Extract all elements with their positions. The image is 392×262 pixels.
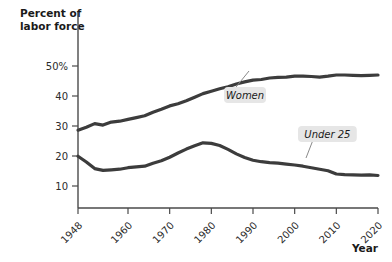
x-axis-title: Year	[351, 242, 379, 254]
y-axis-title-line2: labor force	[20, 20, 85, 32]
x-tick-label-1960: 1960	[109, 220, 135, 246]
chart-figure: Percent of labor force 50%40302010 19481…	[0, 0, 392, 262]
y-axis-title-line1: Percent of	[20, 7, 82, 19]
x-tick-label-1980: 1980	[192, 220, 218, 246]
y-tick-label-10: 10	[55, 181, 68, 192]
line-chart: Percent of labor force 50%40302010 19481…	[0, 0, 392, 262]
y-tick-label-30: 30	[55, 121, 68, 132]
callout-leader-under25	[306, 140, 313, 158]
callout-leader-women	[236, 71, 249, 87]
x-axis-ticks: 19481960197019801990200020102020	[59, 208, 385, 245]
x-tick-label-1970: 1970	[150, 220, 176, 246]
x-tick-label-1948: 1948	[59, 220, 85, 246]
x-tick-label-1990: 1990	[234, 220, 260, 246]
callout-label-under25: Under 25	[304, 129, 350, 140]
series-line-under-25	[78, 143, 378, 176]
y-axis-ticks: 50%40302010	[46, 61, 78, 192]
callout-label-women: Women	[226, 90, 264, 101]
y-tick-label-50: 50%	[46, 61, 68, 72]
x-tick-label-2010: 2010	[317, 220, 343, 246]
series-callouts: WomenUnder 25	[224, 71, 357, 158]
y-tick-label-20: 20	[55, 151, 68, 162]
x-tick-label-2000: 2000	[275, 220, 301, 246]
y-tick-label-40: 40	[55, 91, 68, 102]
